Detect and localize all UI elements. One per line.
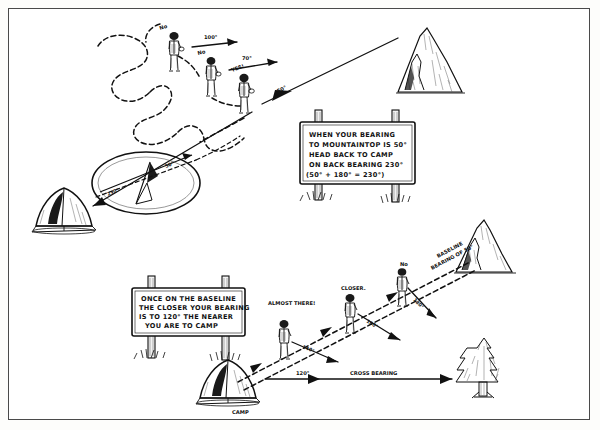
illustration-page: 50° No (0, 0, 600, 430)
page-frame (8, 8, 590, 420)
